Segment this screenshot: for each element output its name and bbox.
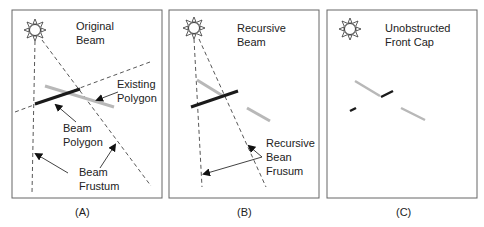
beam-tracing-diagram: Original Beam Existing Polygon Beam Poly… [0,0,484,227]
label-existing: Existing [117,78,156,90]
sun-icon [24,19,46,41]
panel-b-title-2: Beam [237,36,266,48]
label-beam-polygon: Polygon [63,136,103,148]
panel-a-title-1: Original [76,20,114,32]
label-bean: Bean [266,151,292,163]
sun-icon [339,18,361,40]
label-frustum: Frustum [79,180,119,192]
panel-a: Original Beam Existing Polygon Beam Poly… [12,10,162,218]
panel-c-title-1: Unobstructed [385,22,450,34]
label-recursive: Recursive [266,137,315,149]
panel-c-title-2: Front Cap [385,36,434,48]
label-polygon: Polygon [117,92,157,104]
panel-a-title-2: Beam [76,34,105,46]
panel-c: Unobstructed Front Cap (C) [327,10,477,218]
sun-icon [183,17,205,39]
caption-a: (A) [75,206,90,218]
panel-b: Recursive Beam Recursive Bean Frusum (B) [169,10,319,218]
panel-b-title-1: Recursive [237,22,286,34]
label-beam: Beam [63,122,92,134]
label-frusum: Frusum [266,165,303,177]
label-beam-2: Beam [79,166,108,178]
caption-b: (B) [237,206,252,218]
caption-c: (C) [396,206,411,218]
